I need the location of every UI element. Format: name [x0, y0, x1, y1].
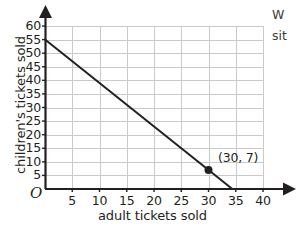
side-text-block: W sit	[272, 4, 303, 46]
side-text-line-1: W	[272, 4, 303, 25]
side-text-line-2: sit	[272, 25, 303, 46]
origin-label: O	[30, 186, 42, 201]
data-point-annotation: (30, 7)	[218, 150, 258, 165]
axes	[0, 0, 303, 229]
chart-figure: children's tickets sold adult tickets so…	[0, 0, 303, 229]
